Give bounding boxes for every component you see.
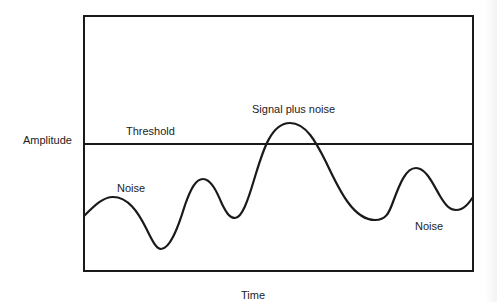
y-axis-label: Amplitude <box>23 134 72 147</box>
noise-left-label: Noise <box>117 182 145 195</box>
x-axis-label: Time <box>241 289 265 302</box>
signal-threshold-diagram: Amplitude Threshold Signal plus noise No… <box>0 0 497 302</box>
diagram-canvas <box>0 0 497 302</box>
page-edge-shadow <box>485 0 497 302</box>
noise-right-label: Noise <box>415 220 443 233</box>
signal-plus-noise-label: Signal plus noise <box>252 103 335 116</box>
threshold-label: Threshold <box>126 125 175 138</box>
